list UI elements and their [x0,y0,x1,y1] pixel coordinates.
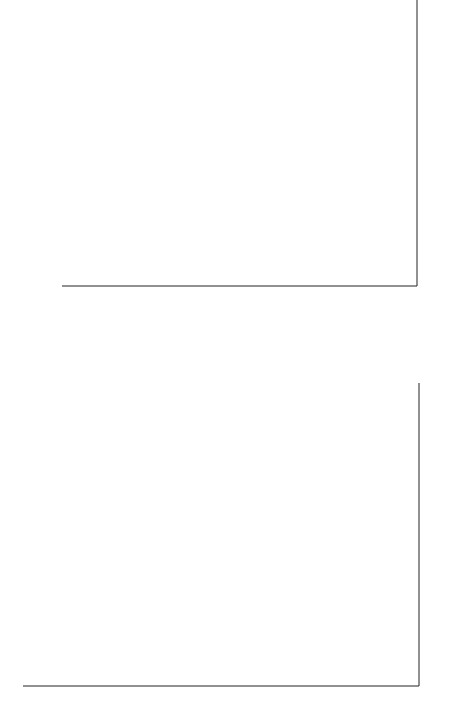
bottom-interface-plot [23,383,419,686]
top-interface-plot [62,0,417,286]
figure-canvas [0,0,472,718]
